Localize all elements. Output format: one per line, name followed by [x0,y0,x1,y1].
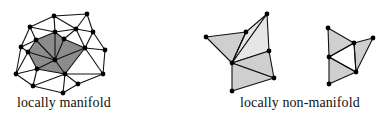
locally-manifold-mesh [14,12,108,96]
mesh-edge [54,16,55,32]
locally-non-manifold-mesh [204,12,376,94]
mesh-vertex [230,89,235,94]
mesh-vertex [31,84,36,89]
mesh-edge [78,74,103,84]
mesh-vertex [91,30,96,35]
mesh-vertex [103,48,108,53]
mesh-edge [103,50,105,74]
mesh-vertex [244,30,249,35]
mesh-vertex [352,41,357,46]
mesh-edge [63,84,78,93]
mesh-vertex [327,82,332,87]
mesh-vertex [267,49,272,54]
mesh-vertex [76,82,81,87]
mesh-vertex [74,27,79,32]
mesh-edge [87,14,93,32]
mesh-vertex [265,12,270,17]
mesh-vertex [204,35,209,40]
mesh-vertex [34,38,39,43]
mesh-edge [33,86,63,93]
mesh-edge [54,16,76,29]
mesh-vertex [63,72,68,77]
mesh-vertex [85,12,90,17]
mesh-vertex [35,67,40,72]
mesh-edge [16,69,37,74]
mesh-edge [93,32,105,50]
triangle-face [354,38,373,72]
mesh-vertex [52,14,57,19]
mesh-edge [63,74,65,93]
mesh-vertex [272,76,277,81]
triangle-face [329,57,356,84]
mesh-vertex [19,45,24,50]
mesh-vertex [327,55,332,60]
mesh-edge [16,74,33,86]
mesh-vertex [53,30,58,35]
mesh-vertex [83,46,88,51]
mesh-edge [85,48,103,74]
mesh-edge [33,69,37,86]
triangle-face [328,28,354,57]
mesh-vertex [28,25,33,30]
mesh-vertex [53,58,58,63]
mesh-vertex [371,36,376,41]
mesh-vertex [14,72,19,77]
caption-locally-manifold: locally manifold [17,95,111,111]
mesh-edge [85,48,105,50]
mesh-vertex [26,50,31,55]
mesh-vertex [326,26,331,31]
mesh-edge [76,29,93,32]
mesh-vertex [354,70,359,75]
mesh-vertex [62,37,67,42]
mesh-edge [33,74,65,86]
caption-locally-non-manifold: locally non-manifold [240,95,360,111]
mesh-edge [65,74,78,84]
mesh-edge [54,14,87,16]
mesh-edge [30,27,55,32]
mesh-edge [85,32,93,48]
mesh-vertex [230,61,235,66]
mesh-edge [76,14,87,29]
mesh-vertex [101,72,106,77]
mesh-edge [30,16,54,27]
